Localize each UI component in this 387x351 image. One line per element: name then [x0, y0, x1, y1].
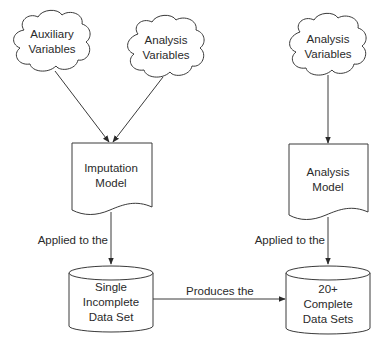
node-label: Analysis — [307, 33, 350, 45]
cloud-shape-icon — [128, 15, 204, 77]
node-label: Imputation — [84, 162, 138, 174]
edge-label-applied-right: Applied to the — [255, 234, 325, 246]
node-label: Analysis — [145, 34, 188, 46]
node-label: 20+ — [318, 283, 338, 295]
node-label: Variables — [142, 49, 189, 61]
node-label: Incomplete — [83, 296, 139, 308]
cloud-auxiliary-variables: Auxiliary Variables — [14, 10, 90, 71]
edge-analysis-to-imputation — [113, 77, 163, 142]
cylinder-top-icon — [69, 266, 153, 280]
edge-label-applied-left: Applied to the — [38, 234, 108, 246]
node-label: Data Sets — [303, 313, 354, 325]
cylinder-top-icon — [286, 266, 370, 280]
node-label: Model — [312, 181, 343, 193]
multiple-imputation-flow-diagram: Auxiliary Variables Analysis Variables A… — [0, 0, 387, 351]
node-label: Variables — [28, 43, 75, 55]
edge-aux-to-imputation — [55, 71, 109, 142]
node-label: Model — [95, 177, 126, 189]
cloud-shape-icon — [14, 10, 90, 71]
cloud-analysis-variables-right: Analysis Variables — [290, 13, 366, 75]
node-label: Auxiliary — [30, 28, 74, 40]
document-imputation-model: Imputation Model — [72, 143, 152, 215]
cylinder-complete-data-sets: 20+ Complete Data Sets — [286, 266, 370, 334]
cylinder-single-incomplete-data-set: Single Incomplete Data Set — [69, 266, 153, 332]
node-label: Analysis — [307, 166, 350, 178]
cloud-analysis-variables-left: Analysis Variables — [128, 15, 204, 77]
node-label: Data Set — [89, 311, 135, 323]
edge-label-produces: Produces the — [186, 285, 254, 297]
node-label: Single — [95, 281, 127, 293]
document-analysis-model: Analysis Model — [289, 144, 368, 220]
node-label: Complete — [303, 298, 352, 310]
node-label: Variables — [304, 48, 351, 60]
